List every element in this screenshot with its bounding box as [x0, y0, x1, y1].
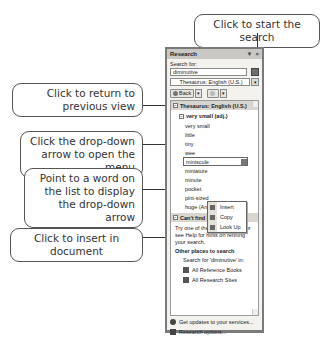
meaning-group-header[interactable]: −very small (adj.): [171, 110, 258, 121]
list-item[interactable]: little: [171, 130, 258, 139]
list-item[interactable]: minute: [171, 175, 258, 184]
pane-title: Research: [170, 51, 197, 57]
back-arrow-icon: [173, 91, 178, 96]
sites-icon: [183, 277, 189, 283]
books-icon: [183, 267, 189, 273]
pane-titlebar: Research ▼ ×: [167, 49, 262, 59]
menu-item-insert[interactable]: Insert: [208, 202, 246, 212]
other-places-title: Other places to search: [171, 246, 258, 255]
forward-button[interactable]: [207, 89, 219, 98]
research-pane: Research ▼ × Search for: diminutive Thes…: [165, 47, 264, 333]
list-item[interactable]: wee: [171, 148, 258, 157]
back-button[interactable]: Back: [170, 89, 194, 98]
callout-insert-doc: Click to insert in document: [10, 228, 143, 262]
source-select[interactable]: Thesaurus: English (U.S.): [170, 78, 250, 86]
link-all-reference-books[interactable]: All Reference Books: [171, 265, 258, 275]
menu-item-copy[interactable]: Copy: [208, 212, 246, 222]
close-icon[interactable]: ×: [255, 51, 259, 57]
search-label: Search for:: [167, 59, 262, 68]
forward-dropdown[interactable]: ▾: [220, 89, 227, 98]
list-item[interactable]: tiny: [171, 139, 258, 148]
word-context-menu: Insert Copy Look Up: [207, 201, 247, 233]
list-item[interactable]: very small: [171, 121, 258, 130]
chevron-down-icon[interactable]: ▾: [251, 78, 259, 86]
back-dropdown[interactable]: ▾: [195, 89, 202, 98]
callout-point-word: Point to a word on the list to display t…: [24, 168, 143, 228]
forward-arrow-icon: [210, 91, 215, 96]
list-item-hovered[interactable]: miniscule: [183, 157, 248, 166]
copy-icon: [208, 212, 217, 222]
get-updates-link[interactable]: Get updates to your services...: [170, 319, 259, 325]
callout-return-previous: Click to return to previous view: [12, 83, 143, 117]
list-item[interactable]: pocket: [171, 184, 258, 193]
link-all-research-sites[interactable]: All Research Sites: [171, 275, 258, 285]
lookup-icon: [208, 222, 217, 232]
menu-item-lookup[interactable]: Look Up: [208, 222, 246, 232]
start-search-button[interactable]: [251, 68, 259, 76]
research-options-link[interactable]: Research options...: [170, 329, 259, 335]
results-list: −Thesaurus: English (U.S.) −very small (…: [170, 100, 259, 316]
pane-menu-icon[interactable]: ▼: [247, 51, 253, 57]
search-for-text: Search for 'diminutive' in:: [171, 255, 258, 265]
insert-icon: [208, 202, 217, 212]
globe-icon: [170, 319, 176, 325]
scroll-up-button[interactable]: [252, 101, 258, 107]
list-item[interactable]: miniature: [171, 166, 258, 175]
dropdown-arrow-icon[interactable]: [241, 159, 247, 165]
options-icon: [170, 329, 176, 335]
scroll-down-button[interactable]: [252, 309, 258, 315]
search-input[interactable]: diminutive: [170, 68, 247, 76]
thesaurus-section-header[interactable]: −Thesaurus: English (U.S.): [171, 101, 258, 110]
